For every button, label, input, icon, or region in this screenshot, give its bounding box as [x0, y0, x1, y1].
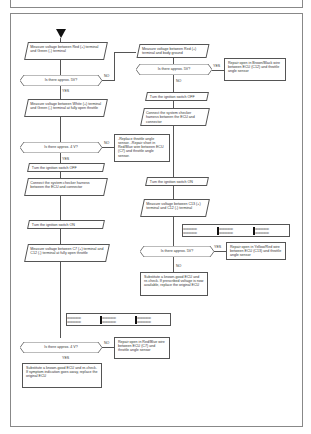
left-decision-5v: Is there approx. 5V?	[20, 75, 102, 86]
right-final-substitute-ecu: Substitute a known-good ECU and re-check…	[140, 272, 208, 296]
connector-line	[102, 347, 114, 348]
left-step-ignition-off: Turn the ignition switch OFF	[27, 163, 105, 172]
connector-line	[114, 52, 136, 53]
right-q2-no-label: NO	[176, 264, 181, 268]
left-step-measure-red-green: Measure voltage between Red (+) terminal…	[24, 42, 108, 60]
left-step-measure-c7-c12: Measure voltage between C7 (+) terminal …	[24, 244, 110, 262]
connector-pins: oooooooooo	[137, 320, 170, 324]
right-step-measure-red-ground: Measure voltage between Red (+) terminal…	[137, 44, 210, 58]
connector-pins: oooooooooo	[67, 320, 102, 324]
left-action-repair-red-blue: Repair open in Red/Blue wire between ECU…	[114, 337, 170, 359]
right-decision-5v: Is there approx. 5V?	[136, 64, 212, 75]
connector-pins: oooooooooo	[183, 231, 219, 235]
right-q1-yes-label: YES	[213, 64, 220, 68]
right-decision-c13-5v: Is there approx. 5V?	[140, 246, 214, 257]
right-q2-yes-label: YES	[214, 245, 221, 249]
left-step-measure-white-green: Measure voltage between White (+) termin…	[24, 99, 108, 117]
left-q3-yes-label: YES	[62, 356, 69, 360]
left-connector-diagram: oooooooooooooooooooooooooooooo ooooooooo…	[66, 313, 171, 326]
connector-pins: oooooooooo	[255, 231, 289, 235]
left-decision-4v: Is there approx. 4 V?	[20, 142, 102, 153]
connector-line	[214, 251, 226, 252]
right-action-repair-brown-black: Repair open in Brown/Black wire between …	[224, 58, 286, 81]
left-q1-yes-label: YES	[62, 89, 69, 93]
left-step-ignition-on: Turn the ignition switch ON	[27, 220, 105, 229]
left-q2-yes-label: YES	[62, 157, 69, 161]
right-step-ignition-off: Turn the ignition switch OFF	[145, 92, 209, 101]
page-title: 1986-89 ACURA INTEGRA	[10, 0, 303, 8]
right-action-repair-yellow-red: Repair open in Yellow/Red wire between E…	[226, 242, 286, 260]
left-decision-c7-4v: Is there approx. 4 V?	[20, 342, 102, 353]
connector-line	[114, 52, 115, 80]
left-q1-no-label: NO	[104, 74, 109, 78]
left-q2-no-label: NO	[104, 141, 109, 145]
start-arrow-icon	[56, 29, 66, 38]
connector-line	[102, 147, 114, 148]
right-step-ignition-on: Turn the ignition switch ON	[145, 177, 209, 186]
connector-line	[212, 70, 224, 71]
connector-pins: oooooooooo	[219, 231, 255, 235]
right-step-measure-c13-c12: Measure voltage between C13 (+) terminal…	[140, 199, 210, 217]
connector-pins: oooooooooo	[102, 320, 137, 324]
right-step-connect-checker: Connect the system checker harness betwe…	[140, 108, 210, 126]
connector-line	[102, 80, 115, 81]
left-no-action-replace-sensor: -Replace throttle angle sensor. -Repair …	[114, 134, 170, 162]
right-connector-diagram: oooooooooooooooooooooooooooooo ooooooooo…	[182, 224, 290, 237]
left-q3-no-label: NO	[104, 341, 109, 345]
left-final-substitute-ecu: Substitute a known-good ECU and re-check…	[22, 363, 102, 388]
left-step-connect-checker: Connect the system checker harness betwe…	[24, 178, 108, 196]
right-q1-no-label: NO	[176, 79, 181, 83]
